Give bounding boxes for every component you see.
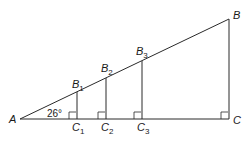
right-angle-marker-C3 <box>134 112 141 119</box>
label-C1: C1 <box>72 121 85 136</box>
right-angle-marker-C2 <box>98 112 105 119</box>
triangle-diagram: A 26° B C B1 B2 B3 C1 C2 C3 <box>0 0 248 144</box>
label-B2: B2 <box>101 62 113 77</box>
right-angle-marker-C1 <box>69 112 76 119</box>
label-C3: C3 <box>137 121 150 136</box>
hypotenuse-AB <box>20 19 229 119</box>
label-B: B <box>233 9 240 21</box>
label-C: C <box>233 114 241 126</box>
angle-label: 26° <box>47 108 62 119</box>
label-C2: C2 <box>101 121 114 136</box>
right-angle-marker-C <box>221 112 228 119</box>
label-A: A <box>8 113 16 125</box>
label-B3: B3 <box>136 45 148 60</box>
